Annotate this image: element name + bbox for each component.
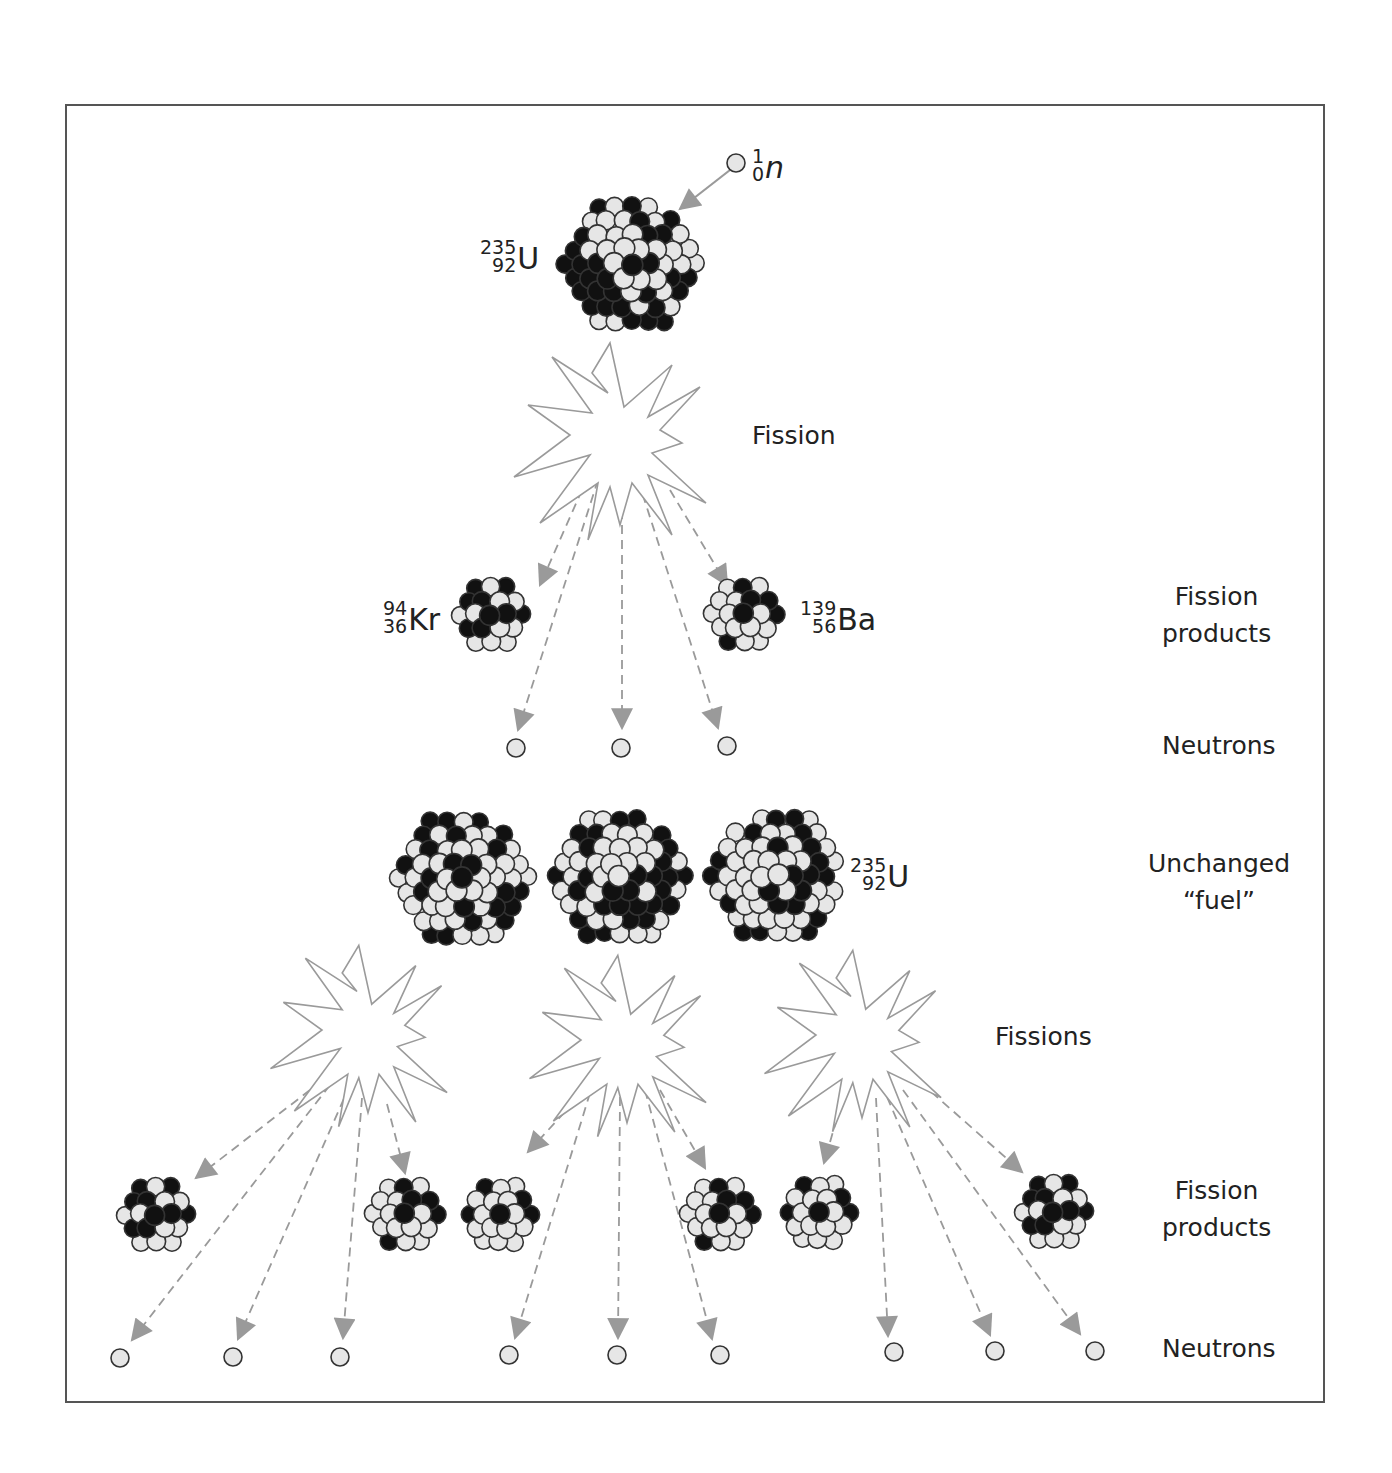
fp-1-nucleus-icon [117, 1178, 196, 1252]
neutron-icon [111, 1349, 129, 1367]
atomic-number: 56 [812, 617, 836, 635]
barium-139-label: 13956 Ba [800, 599, 876, 635]
ba139-nucleus-icon [703, 578, 785, 651]
element-symbol: Ba [837, 605, 876, 635]
neutron-arrows [132, 170, 1080, 1340]
neutron-icon [224, 1348, 242, 1366]
neutron-icon [608, 1346, 626, 1364]
proton [490, 1204, 510, 1224]
proton [1043, 1202, 1063, 1222]
neutron-icon [500, 1346, 518, 1364]
incoming-neutron-icon [727, 154, 745, 172]
fp-6-nucleus-icon [1015, 1175, 1094, 1249]
neutron-path-arrow-icon [670, 490, 727, 585]
fp-4-nucleus-icon [679, 1178, 761, 1251]
u235-fuel-1-nucleus-icon [390, 812, 537, 945]
proton [145, 1205, 165, 1225]
label-fission-products-1: Fission products [1162, 578, 1271, 652]
fission-1-starburst-icon [514, 343, 706, 540]
kr94-nucleus-icon [452, 578, 531, 652]
neutron-icon [1086, 1342, 1104, 1360]
u235-fuel-3-nucleus-icon [703, 810, 844, 941]
label-unchanged-fuel: Unchanged “fuel” [1148, 845, 1290, 919]
neutron-path-arrow-icon [387, 1104, 405, 1173]
atomic-number: 92 [862, 874, 886, 892]
krypton-94-label: 9436 Kr [383, 599, 440, 635]
label-line: Fission [1162, 578, 1271, 615]
proton [622, 254, 643, 275]
neutron-icon [612, 739, 630, 757]
neutron-path-arrow-icon [638, 480, 718, 728]
label-line: Fission [1162, 1172, 1271, 1209]
atomic-number: 36 [383, 617, 407, 635]
neutron-path-arrow-icon [618, 1097, 620, 1338]
label-fission-products-2: Fission products [1162, 1172, 1271, 1246]
fp-2-nucleus-icon [364, 1178, 446, 1251]
proton [452, 867, 473, 888]
proton [733, 603, 753, 623]
neutron-path-arrow-icon [887, 1097, 990, 1335]
neutron-icon [885, 1343, 903, 1361]
proton [809, 1202, 829, 1222]
atomic-number: 0 [752, 165, 764, 183]
neutron-path-arrow-icon [680, 170, 730, 209]
neutron-path-arrow-icon [876, 1098, 888, 1336]
neutron-path-arrow-icon [238, 1085, 350, 1339]
label-line: products [1162, 1209, 1271, 1246]
element-symbol: Kr [408, 605, 440, 635]
fission-2b-starburst-icon [530, 955, 707, 1136]
neutron-icon [711, 1346, 729, 1364]
element-symbol: n [765, 153, 784, 183]
fp-5-nucleus-icon [780, 1176, 858, 1250]
element-symbol: U [517, 244, 539, 274]
label-line: “fuel” [1148, 882, 1290, 919]
uranium-235-label-top: 23592 U [480, 238, 539, 274]
neutron [608, 866, 629, 887]
neutron-icon [986, 1342, 1004, 1360]
neutron-path-arrow-icon [518, 480, 598, 730]
label-line: products [1162, 615, 1271, 652]
u235-initial-nucleus-icon [556, 197, 704, 331]
element-symbol: U [887, 862, 909, 892]
neutron-path-arrow-icon [343, 1098, 362, 1338]
neutron-icon [507, 739, 525, 757]
label-line: Unchanged [1148, 845, 1290, 882]
proton [394, 1203, 414, 1223]
label-neutrons-2: Neutrons [1162, 1331, 1276, 1367]
proton [709, 1203, 729, 1223]
label-neutrons-1: Neutrons [1162, 728, 1276, 764]
label-fission: Fission [752, 418, 836, 454]
proton [480, 605, 500, 625]
incoming-neutron-label: 10 n [752, 147, 784, 183]
neutron-icon [331, 1348, 349, 1366]
atomic-number: 92 [492, 256, 516, 274]
fission-2c-starburst-icon [765, 950, 942, 1131]
neutron-path-arrow-icon [660, 1090, 705, 1168]
fission-starbursts [271, 343, 942, 1137]
uranium-235-label-fuel: 23592 U [850, 856, 909, 892]
label-fissions: Fissions [995, 1019, 1092, 1055]
neutron-icon [718, 737, 736, 755]
fp-3-nucleus-icon [461, 1178, 539, 1252]
fission-chain-diagram: 10 n 23592 U 9436 Kr 13956 Ba 23592 U Fi… [0, 0, 1392, 1473]
neutron [768, 864, 789, 885]
free-neutrons [111, 154, 1104, 1367]
u235-fuel-2-nucleus-icon [548, 810, 694, 944]
